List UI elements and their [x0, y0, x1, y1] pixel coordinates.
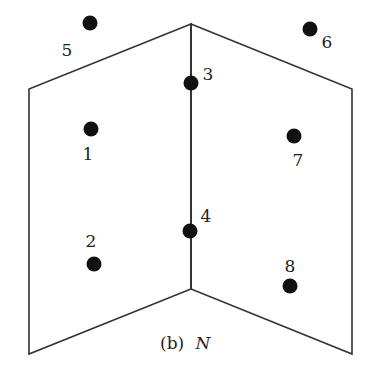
caption-symbol: N	[195, 333, 212, 353]
point-6	[303, 22, 318, 37]
points-layer: 12345678	[62, 16, 333, 294]
point-label-1: 1	[83, 144, 94, 164]
point-label-6: 6	[322, 32, 333, 52]
point-3	[184, 76, 199, 91]
point-8	[283, 279, 298, 294]
point-label-4: 4	[201, 206, 212, 226]
point-label-3: 3	[203, 64, 214, 84]
left-plane	[29, 24, 191, 354]
point-label-8: 8	[285, 256, 296, 276]
point-label-7: 7	[293, 150, 304, 170]
point-label-2: 2	[86, 231, 97, 251]
point-2	[87, 257, 102, 272]
caption-prefix: (b)	[160, 333, 184, 353]
right-plane	[191, 24, 352, 354]
point-label-5: 5	[62, 40, 73, 60]
point-5	[83, 16, 98, 31]
folded-planes-diagram: 12345678 (b) N	[0, 0, 370, 384]
point-4	[183, 224, 198, 239]
caption: (b) N	[160, 333, 212, 353]
point-1	[84, 122, 99, 137]
point-7	[287, 129, 302, 144]
